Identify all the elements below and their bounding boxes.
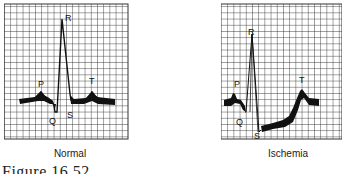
normal-p-label: P <box>38 79 44 89</box>
figure-caption: Figure 16.52 <box>2 163 90 174</box>
ischemia-ecg-grid: P Q R S T <box>221 0 342 140</box>
ischemia-caption: Ischemia <box>258 148 318 159</box>
normal-caption: Normal <box>40 148 100 159</box>
normal-q-label: Q <box>49 116 56 126</box>
ischemia-q-label: Q <box>236 117 243 127</box>
ischemia-ecg-panel: P Q R S T <box>221 0 342 140</box>
ischemia-t-label: T <box>299 75 305 85</box>
ischemia-r-label: R <box>248 27 255 37</box>
normal-r-label: R <box>65 13 72 23</box>
ischemia-p-label: P <box>234 79 240 89</box>
normal-s-label: S <box>67 110 73 120</box>
normal-t-label: T <box>89 76 95 86</box>
normal-ecg-grid: P Q R S T <box>4 0 129 140</box>
ischemia-s-label: S <box>254 131 260 140</box>
normal-ecg-panel: P Q R S T <box>4 0 129 140</box>
